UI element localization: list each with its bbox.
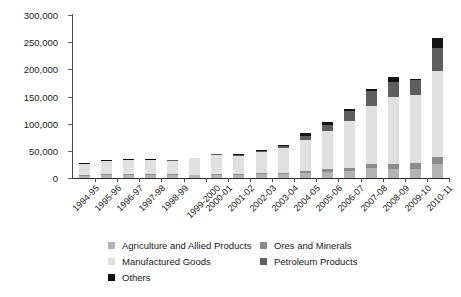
bar-segment xyxy=(233,156,244,174)
bar-segment xyxy=(410,95,421,163)
bar-segment xyxy=(278,174,289,178)
chart-legend: Agriculture and Allied Products Ores and… xyxy=(108,239,448,287)
legend-swatch-icon xyxy=(108,242,115,249)
bar-segment xyxy=(432,48,443,71)
bar-segment xyxy=(101,161,112,174)
legend-item-ores-and-minerals: Ores and Minerals xyxy=(260,239,352,252)
bar-segment xyxy=(388,97,399,164)
stacked-bar-chart: 300,000250,000200,000150,000100,00050,00… xyxy=(0,0,461,297)
x-axis-line xyxy=(72,178,450,179)
bar-segment xyxy=(366,168,377,178)
legend-item-agriculture-and-allied-products: Agriculture and Allied Products xyxy=(108,239,260,252)
x-axis-tick-mark xyxy=(95,178,96,182)
y-axis-tick-labels: 300,000250,000200,000150,000100,00050,00… xyxy=(0,0,68,297)
bar-group xyxy=(256,150,267,178)
x-axis-tick-mark xyxy=(338,178,339,182)
bar-group xyxy=(167,160,178,178)
bar-group xyxy=(388,77,399,178)
legend-label: Manufactured Goods xyxy=(122,255,211,268)
bar-segment xyxy=(123,160,134,174)
bar-segment xyxy=(189,158,200,174)
x-axis-tick-mark xyxy=(316,178,317,182)
legend-row: Manufactured Goods Petroleum Products xyxy=(108,255,448,268)
legend-swatch-icon xyxy=(108,258,115,265)
legend-label: Petroleum Products xyxy=(274,255,357,268)
bar-segment xyxy=(322,131,333,169)
x-axis-tick-mark xyxy=(361,178,362,182)
legend-row: Agriculture and Allied Products Ores and… xyxy=(108,239,448,252)
bar-segment xyxy=(432,71,443,157)
bar-segment xyxy=(300,173,311,178)
bar-group xyxy=(189,158,200,178)
x-axis-tick-mark xyxy=(272,178,273,182)
bar-segment xyxy=(79,164,90,175)
y-axis-tick-label: 0 xyxy=(53,173,58,184)
bar-group xyxy=(322,122,333,178)
x-axis-tick-mark xyxy=(383,178,384,182)
bar-segment xyxy=(278,148,289,173)
bar-group xyxy=(432,38,443,178)
plot-area xyxy=(73,15,449,178)
bar-segment xyxy=(322,172,333,178)
legend-label: Others xyxy=(122,271,151,284)
bar-segment xyxy=(366,106,377,163)
y-axis-tick-label: 150,000 xyxy=(24,91,58,102)
y-axis-tick-label: 250,000 xyxy=(24,37,58,48)
bar-segment xyxy=(167,175,178,178)
x-axis-tick-mark xyxy=(117,178,118,182)
legend-label: Ores and Minerals xyxy=(274,239,352,252)
x-axis-tick-mark xyxy=(184,178,185,182)
bar-segment xyxy=(101,175,112,178)
bar-group xyxy=(233,154,244,178)
legend-swatch-icon xyxy=(260,258,267,265)
bar-segment xyxy=(432,164,443,178)
bar-group xyxy=(79,163,90,178)
legend-row: Others xyxy=(108,271,448,284)
y-axis-tick-label: 50,000 xyxy=(29,145,58,156)
bar-segment xyxy=(344,111,355,121)
x-axis-tick-mark xyxy=(206,178,207,182)
bar-segment xyxy=(79,176,90,178)
bar-segment xyxy=(432,38,443,48)
bar-segment xyxy=(344,171,355,178)
bar-segment xyxy=(123,175,134,178)
bar-group xyxy=(123,159,134,178)
x-axis-tick-mark xyxy=(139,178,140,182)
x-axis-tick-mark xyxy=(250,178,251,182)
y-axis-tick-label: 100,000 xyxy=(24,118,58,129)
legend-label: Agriculture and Allied Products xyxy=(122,239,251,252)
x-axis-tick-mark xyxy=(294,178,295,182)
bar-segment xyxy=(388,169,399,179)
bar-segment xyxy=(233,175,244,178)
bar-group xyxy=(101,160,112,178)
x-axis-tick-mark xyxy=(228,178,229,182)
bar-segment xyxy=(211,155,222,174)
y-axis-tick-label: 300,000 xyxy=(24,10,58,21)
y-axis-tick-label: 200,000 xyxy=(24,64,58,75)
bar-segment xyxy=(344,121,355,167)
bar-group xyxy=(278,145,289,178)
bar-segment xyxy=(432,157,443,164)
bar-segment xyxy=(167,161,178,175)
bar-segment xyxy=(256,152,267,173)
bar-segment xyxy=(189,175,200,178)
legend-item-manufactured-goods: Manufactured Goods xyxy=(108,255,260,268)
legend-item-others: Others xyxy=(108,271,260,284)
bar-group xyxy=(145,159,156,178)
bar-segment xyxy=(145,175,156,178)
x-axis-tick-mark xyxy=(405,178,406,182)
legend-swatch-icon xyxy=(260,242,267,249)
bar-segment xyxy=(256,174,267,178)
legend-swatch-icon xyxy=(108,274,115,281)
x-axis-tick-mark xyxy=(161,178,162,182)
bar-segment xyxy=(366,91,377,106)
legend-item-petroleum-products: Petroleum Products xyxy=(260,255,357,268)
y-axis-tick-mark xyxy=(68,178,73,179)
bar-group xyxy=(344,109,355,178)
x-axis-tick-mark xyxy=(449,178,450,182)
bar-segment xyxy=(300,140,311,171)
bar-segment xyxy=(410,169,421,179)
bar-group xyxy=(300,133,311,178)
bar-segment xyxy=(410,80,421,95)
bar-segment xyxy=(145,160,156,174)
